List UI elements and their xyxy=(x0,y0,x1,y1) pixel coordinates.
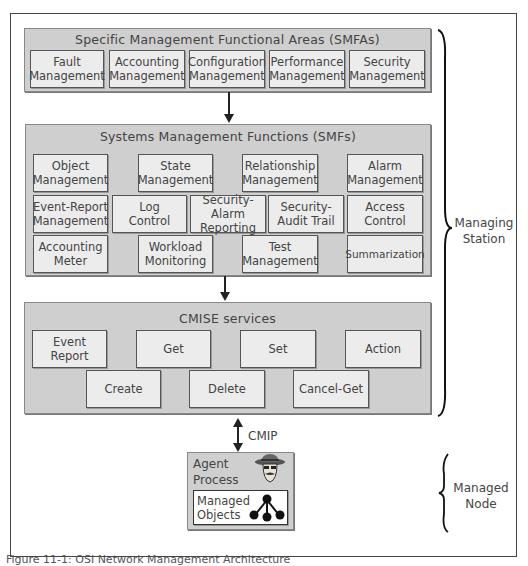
smf-title: Systems Management Functions (SMFs) xyxy=(26,129,430,144)
smf-state-management: StateManagement xyxy=(138,154,213,192)
cmise-cancel-get: Cancel-Get xyxy=(293,370,369,408)
smfa-title: Specific Management Functional Areas (SM… xyxy=(25,32,430,47)
cmise-create: Create xyxy=(86,370,161,408)
smf-log-control: LogControl xyxy=(112,195,187,233)
object-tree-icon xyxy=(248,493,286,523)
smf-test-management: TestManagement xyxy=(242,235,318,273)
managed-node-label: ManagedNode xyxy=(450,480,512,512)
smf-workload-monitoring: WorkloadMonitoring xyxy=(138,235,213,273)
smfa-security-management: SecurityManagement xyxy=(349,50,425,88)
smf-accounting-meter: AccountingMeter xyxy=(33,235,108,273)
arrow-smfa-to-smf xyxy=(228,92,230,116)
smfa-fault-management: FaultManagement xyxy=(30,50,104,88)
smf-access-control: AccessControl xyxy=(347,195,423,233)
cmip-label: CMIP xyxy=(248,428,278,444)
cmise-event-report: EventReport xyxy=(32,330,107,368)
smf-event-report-management: Event-ReportManagement xyxy=(33,195,108,233)
agent-spy-icon xyxy=(252,452,288,488)
smfa-configuration-management: ConfigurationManagement xyxy=(189,50,265,88)
smfa-performance-management: PerformanceManagement xyxy=(269,50,345,88)
smf-security-alarm-reporting: Security-AlarmReporting xyxy=(190,195,266,233)
smf-object-management: ObjectManagement xyxy=(33,154,108,192)
cmise-get: Get xyxy=(136,330,211,368)
cmise-delete: Delete xyxy=(189,370,265,408)
smf-alarm-management: AlarmManagement xyxy=(347,154,423,192)
cmise-set: Set xyxy=(240,330,316,368)
smfa-accounting-management: AccountingManagement xyxy=(109,50,185,88)
managing-station-label: ManagingStation xyxy=(449,215,519,247)
arrowhead-icon xyxy=(224,114,234,123)
agent-process-label: AgentProcess xyxy=(193,456,239,488)
cmise-action: Action xyxy=(345,330,421,368)
arrowhead-icon xyxy=(220,292,230,301)
smf-security-audit-trail: Security-Audit Trail xyxy=(268,195,344,233)
arrowhead-icon xyxy=(233,443,243,452)
figure-caption: Figure 11-1: OSI Network Management Arch… xyxy=(6,553,290,566)
cmise-title: CMISE services xyxy=(25,311,430,326)
smf-summarization: Summarization xyxy=(347,235,423,273)
smf-relationship-management: RelationshipManagement xyxy=(242,154,318,192)
